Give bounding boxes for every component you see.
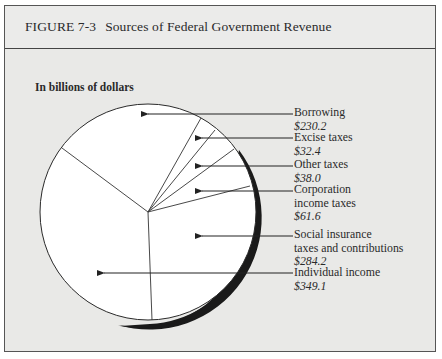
label-name: Excise taxes: [294, 130, 353, 144]
label-name: Individual income: [294, 265, 380, 279]
label-value: $32.4: [294, 145, 353, 159]
label-name: Borrowing: [294, 105, 345, 119]
label-value: $349.1: [294, 280, 380, 294]
label-other-taxes: Other taxes $38.0: [294, 158, 348, 185]
label-name-line2: income taxes: [294, 196, 356, 210]
label-borrowing: Borrowing $230.2: [294, 106, 345, 133]
label-name: Corporation: [294, 182, 351, 196]
label-name: Social insurance: [294, 227, 372, 241]
label-corporation-income-taxes: Corporation income taxes $61.6: [294, 183, 356, 224]
pie-chart: [0, 0, 442, 359]
label-individual-income: Individual income $349.1: [294, 266, 380, 293]
label-excise-taxes: Excise taxes $32.4: [294, 131, 353, 158]
label-name: Other taxes: [294, 157, 348, 171]
label-name-line2: taxes and contributions: [294, 241, 403, 255]
label-value: $61.6: [294, 210, 356, 224]
label-social-insurance: Social insurance taxes and contributions…: [294, 228, 403, 269]
